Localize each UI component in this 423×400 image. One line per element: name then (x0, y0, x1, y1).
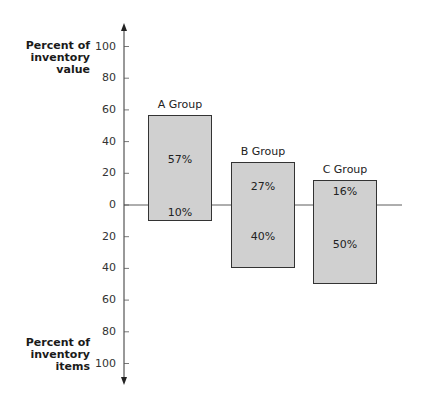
upper-tick-label: 40 (90, 135, 116, 148)
arrow-down-icon (121, 377, 127, 385)
upper-axis-title: Percent of inventory value (18, 40, 90, 76)
value-label: 16% (313, 185, 377, 198)
lower-tick-label: 60 (90, 293, 116, 306)
lower-tick-label: 100 (90, 357, 116, 370)
value-label: 57% (148, 153, 212, 166)
value-label: 27% (231, 180, 295, 193)
upper-tick-label: 20 (90, 166, 116, 179)
abc-analysis-chart: Percent of inventory value Percent of in… (0, 0, 423, 400)
group-label: A Group (140, 98, 220, 111)
lower-tick-label: 80 (90, 325, 116, 338)
items-label: 50% (313, 238, 377, 251)
arrow-up-icon (121, 23, 127, 31)
lower-axis-title: Percent of inventory items (18, 337, 90, 373)
bar-a-group (148, 115, 212, 221)
lower-tick-label: 20 (90, 230, 116, 243)
upper-tick-label: 80 (90, 71, 116, 84)
upper-tick-label: 60 (90, 103, 116, 116)
items-label: 40% (231, 230, 295, 243)
group-label: C Group (305, 163, 385, 176)
axis-ticks (124, 47, 129, 364)
items-label: 10% (148, 206, 212, 219)
upper-tick-label: 100 (90, 40, 116, 53)
group-label: B Group (223, 145, 303, 158)
upper-tick-label: 0 (90, 198, 116, 211)
bar-b-group (231, 162, 295, 268)
lower-tick-label: 40 (90, 261, 116, 274)
